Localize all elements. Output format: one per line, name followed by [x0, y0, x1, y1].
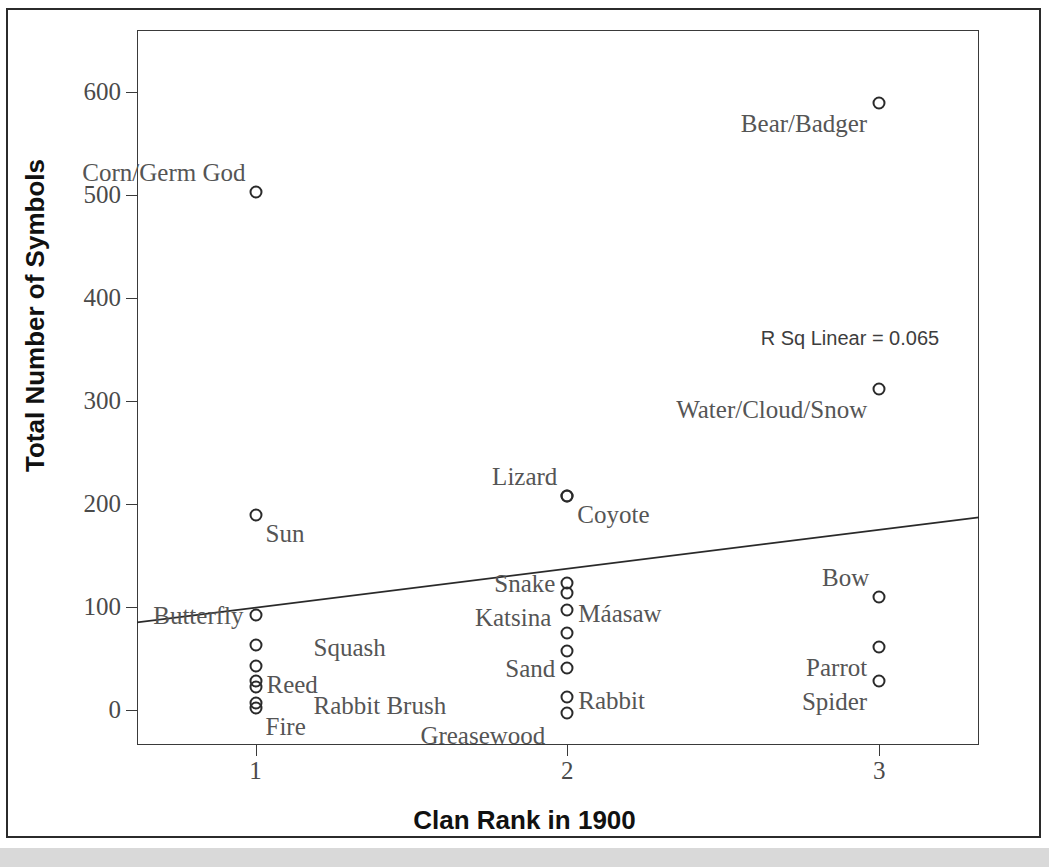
scatter-point-marker [561, 626, 574, 639]
y-tick-mark [126, 401, 137, 402]
x-axis-title: Clan Rank in 1900 [0, 805, 1049, 836]
scatter-point-marker [249, 639, 262, 652]
scatter-point-label: Katsina [475, 604, 551, 629]
x-tick-label: 1 [249, 757, 262, 785]
scatter-point-label: Sun [266, 521, 305, 546]
y-tick-mark [126, 607, 137, 608]
scatter-point-label: Bear/Badger [741, 111, 867, 136]
y-tick-mark [126, 710, 137, 711]
scatter-point-marker [561, 489, 574, 502]
scatter-point-marker [873, 675, 886, 688]
scatter-point-label: Coyote [577, 501, 649, 526]
scatter-point-marker [561, 690, 574, 703]
y-tick-label: 200 [84, 490, 122, 518]
scatter-point-label: Bow [822, 564, 869, 589]
scatter-point-marker [249, 659, 262, 672]
scatter-point-marker [561, 707, 574, 720]
scatter-point-label: Greasewood [420, 723, 545, 748]
scatter-point-label: Lizard [492, 463, 557, 488]
x-tick-label: 3 [873, 757, 886, 785]
scatter-point-marker [873, 97, 886, 110]
scatter-point-marker [249, 509, 262, 522]
scatter-point-label: Water/Cloud/Snow [676, 396, 867, 421]
scatter-point-label: Spider [802, 689, 867, 714]
scatter-point-label: Squash [314, 635, 386, 660]
scatter-point-marker [873, 641, 886, 654]
scatter-point-marker [561, 586, 574, 599]
scatter-point-label: Snake [494, 571, 555, 596]
scatter-point-label: Rabbit [578, 687, 645, 712]
y-tick-mark [126, 195, 137, 196]
x-tick-label: 2 [561, 757, 574, 785]
scatter-point-marker [249, 681, 262, 694]
scatter-point-marker [873, 590, 886, 603]
scatter-point-marker [873, 382, 886, 395]
scatter-point-marker [249, 701, 262, 714]
scatter-point-label: Rabbit Brush [314, 692, 447, 717]
scatter-point-label: Máasaw [578, 601, 661, 626]
plot-area: Corn/Germ GodSunButterflySquashReedRabbi… [137, 30, 979, 745]
scatter-point-marker [249, 185, 262, 198]
x-tick-mark [879, 745, 880, 756]
r-squared-annotation: R Sq Linear = 0.065 [761, 327, 939, 350]
scatter-point-label: Butterfly [153, 603, 243, 628]
scatter-point-marker [561, 604, 574, 617]
scatter-point-label: Reed [267, 672, 318, 697]
scatter-point-label: Corn/Germ God [82, 159, 245, 184]
y-tick-mark [126, 298, 137, 299]
y-tick-mark [126, 504, 137, 505]
y-tick-label: 300 [84, 387, 122, 415]
scatter-point-marker [561, 661, 574, 674]
y-tick-label: 0 [109, 696, 122, 724]
scatter-plot-figure: Total Number of Symbols 0100200300400500… [0, 0, 1049, 867]
y-tick-label: 100 [84, 593, 122, 621]
y-tick-label: 400 [84, 284, 122, 312]
page-bottom-strip [0, 848, 1049, 867]
y-tick-label: 600 [84, 78, 122, 106]
scatter-point-label: Parrot [806, 655, 867, 680]
y-axis-title: Total Number of Symbols [20, 86, 51, 546]
x-tick-mark [256, 745, 257, 756]
x-tick-mark [567, 745, 568, 756]
scatter-point-label: Fire [266, 713, 306, 738]
scatter-point-marker [561, 645, 574, 658]
y-tick-mark [126, 92, 137, 93]
scatter-point-label: Sand [505, 655, 555, 680]
regression-line [137, 30, 979, 745]
scatter-point-marker [249, 609, 262, 622]
